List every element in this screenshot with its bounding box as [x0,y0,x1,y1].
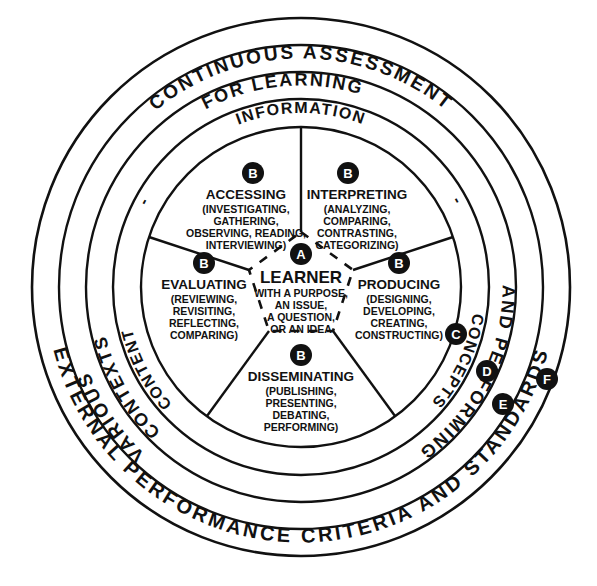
segment-accessing-title: ACCESSING [206,187,286,202]
segment-disseminating-line-2: PRESENTING, [265,397,336,409]
segment-producing-line-4: CONSTRUCTING) [355,329,443,341]
segment-disseminating-line-3: DEBATING, [273,409,330,421]
badge-d-letter: D [482,364,491,379]
segment-evaluating-line-1: (REVIEWING, [171,293,238,305]
diagram-canvas: EXTERNAL PERFORMANCE CRITERIA AND STANDA… [0,0,597,586]
segment-producing-title: PRODUCING [358,277,441,292]
segment-interpreting-line-3: CONTRASTING, [317,227,397,239]
segment-evaluating-line-2: REVISITING, [173,305,236,317]
segment-evaluating-line-3: REFLECTING, [169,317,239,329]
segment-disseminating-line-1: (PUBLISHING, [265,385,336,397]
segment-disseminating-title: DISSEMINATING [248,369,354,384]
badge-e-letter: E [499,397,508,412]
badge-f-letter: F [543,372,551,387]
segment-accessing-line-1: (INVESTIGATING, [202,203,289,215]
segment-accessing-line-3: OBSERVING, READING, [186,227,306,239]
segment-interpreting-title: INTERPRETING [307,187,408,202]
center-title: LEARNER [260,268,342,287]
segment-evaluating-title: EVALUATING [161,277,247,292]
concentric-assessment-diagram: EXTERNAL PERFORMANCE CRITERIA AND STANDA… [0,0,597,586]
badge-b-disseminating-letter: B [296,348,305,363]
segment-producing-line-1: (DESIGNING, [366,293,431,305]
segment-disseminating-line-4: PERFORMING) [264,421,339,433]
badge-b-interpreting-letter: B [343,166,352,181]
badge-a-letter: A [296,247,306,262]
center-line-1: WITH A PURPOSE, [254,287,348,299]
center-line-4: OR AN IDEA [270,323,332,335]
center-line-3: A QUESTION, [267,311,335,323]
badge-c-letter: C [451,327,461,342]
badge-b-evaluating-letter: B [199,256,208,271]
badge-b-producing-letter: B [394,256,403,271]
segment-evaluating-line-4: COMPARING) [170,329,238,341]
segment-interpreting-line-4: CATEGORIZING) [315,239,398,251]
segment-interpreting-line-2: COMPARING, [323,215,391,227]
badge-b-accessing-letter: B [248,166,257,181]
segment-accessing-line-2: GATHERING, [213,215,278,227]
segment-accessing-line-4: INTERVIEWING) [206,239,286,251]
center-line-2: AN ISSUE, [275,299,328,311]
segment-producing-line-2: DEVELOPING, [363,305,435,317]
segment-interpreting-line-1: (ANALYZING, [324,203,391,215]
marker-a: A [290,243,312,265]
segment-producing-line-3: CREATING, [371,317,428,329]
